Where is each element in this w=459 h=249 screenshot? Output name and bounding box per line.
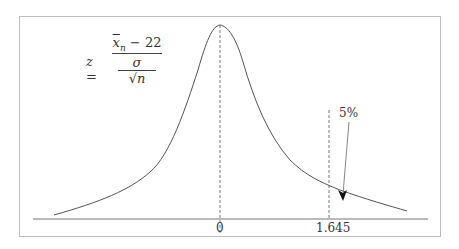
- formula-fraction: xn − 22 σ √n: [112, 34, 162, 87]
- sqrt-icon: √: [129, 71, 137, 86]
- annotation-arrow-shaft: [343, 122, 349, 194]
- density-curve: [54, 25, 407, 215]
- arrow-head-icon: [338, 190, 347, 201]
- formula-sqrt: √n: [112, 71, 162, 87]
- tick-label-zero: 0: [216, 221, 224, 235]
- tick-label-critical: 1.645: [316, 221, 350, 235]
- formula-lhs: z =: [86, 54, 97, 84]
- formula-sigma: σ: [112, 55, 162, 70]
- formula-minus-const: − 22: [126, 35, 162, 50]
- formula-numerator: xn − 22: [112, 34, 162, 52]
- formula-fraction-bar: [112, 53, 162, 54]
- formula-denominator: σ √n: [112, 55, 162, 87]
- formula-xbar: x: [113, 35, 120, 50]
- formula-n: n: [137, 71, 145, 86]
- density-plot: [0, 0, 459, 249]
- annotation-five-percent: 5%: [339, 106, 358, 120]
